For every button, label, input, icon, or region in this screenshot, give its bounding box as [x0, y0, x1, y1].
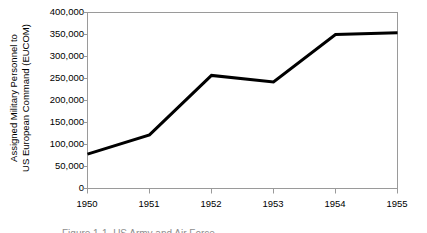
figure-caption: Figure 1-1. US Army and Air Force [62, 228, 215, 233]
x-axis-tick-labels: 1950 1951 1952 1953 1954 1955 [0, 0, 427, 233]
x-tick-label-1951: 1951 [127, 198, 171, 209]
x-tick-label-1953: 1953 [251, 198, 295, 209]
figure-container: Assigned Military Personnel to US Europe… [0, 0, 427, 233]
x-tick-label-1955: 1955 [375, 198, 419, 209]
x-tick-label-1952: 1952 [189, 198, 233, 209]
x-tick-label-1950: 1950 [65, 198, 109, 209]
x-tick-label-1954: 1954 [313, 198, 357, 209]
